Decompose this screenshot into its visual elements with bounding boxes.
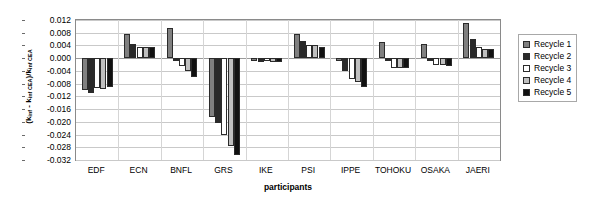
group-separator [288, 20, 289, 160]
y-axis-tick [22, 160, 25, 161]
y-axis-tick-label: -0.020 [27, 118, 71, 126]
legend-item[interactable]: Recycle 2 [523, 50, 571, 62]
bar [149, 47, 155, 58]
gridline [76, 160, 500, 161]
group-separator [458, 20, 459, 160]
y-axis-tick [22, 96, 25, 97]
x-axis-tick-label: IKE [245, 165, 287, 175]
group-separator [373, 20, 374, 160]
legend-item[interactable]: Recycle 3 [523, 62, 571, 74]
y-axis-tick [22, 71, 25, 72]
y-axis-tick [22, 20, 25, 21]
y-axis-tick-label: 0.012 [27, 16, 71, 24]
legend-item[interactable]: Recycle 1 [523, 38, 571, 50]
plot-area [75, 19, 501, 161]
legend-item[interactable]: Recycle 4 [523, 74, 571, 86]
x-axis-tick-label: EDF [75, 165, 117, 175]
bar [167, 28, 173, 58]
plot-inner [76, 20, 500, 160]
y-axis-tick [22, 109, 25, 110]
legend-swatch-icon [523, 77, 530, 84]
y-axis-tick [22, 58, 25, 59]
y-axis-tick-label: 0.008 [27, 29, 71, 37]
y-axis-tick [22, 147, 25, 148]
legend-label: Recycle 3 [534, 63, 571, 73]
group-separator [415, 20, 416, 160]
group-separator [161, 20, 162, 160]
group-separator [246, 20, 247, 160]
bar [488, 49, 494, 59]
bar [319, 47, 325, 58]
y-axis-tick-label: -0.012 [27, 92, 71, 100]
y-axis-tick-label: 0.004 [27, 41, 71, 49]
group-separator [118, 20, 119, 160]
x-axis-tick-label: BNFL [160, 165, 202, 175]
bar [276, 58, 282, 62]
bar [234, 58, 240, 155]
legend-swatch-icon [523, 41, 530, 48]
y-axis-tick [22, 33, 25, 34]
y-axis-tick-label: -0.004 [27, 67, 71, 75]
y-axis-tick [22, 84, 25, 85]
bar [421, 44, 427, 58]
y-axis-tick-label: -0.032 [27, 156, 71, 164]
bar [191, 58, 197, 77]
bar [379, 42, 385, 58]
chart-legend: Recycle 1Recycle 2Recycle 3Recycle 4Recy… [518, 34, 577, 102]
y-axis-tick-label: -0.028 [27, 143, 71, 151]
x-axis-tick-label: TOHOKU [372, 165, 414, 175]
legend-swatch-icon [523, 89, 530, 96]
y-axis-tick-label: -0.008 [27, 80, 71, 88]
x-axis-tick-label: OSAKA [414, 165, 456, 175]
y-axis-tick [22, 135, 25, 136]
x-axis-tick-label: IPPE [329, 165, 371, 175]
legend-label: Recycle 2 [534, 51, 571, 61]
chart-container: (kinf - kinf CEA)/kinf CEA 0.0120.0080.0… [0, 0, 610, 205]
legend-swatch-icon [523, 65, 530, 72]
bar [107, 58, 113, 87]
legend-swatch-icon [523, 53, 530, 60]
legend-label: Recycle 1 [534, 39, 571, 49]
y-axis-tick [22, 45, 25, 46]
y-axis-tick-labels: 0.0120.0080.0040.000-0.004-0.008-0.012-0… [25, 19, 71, 161]
x-axis-title: participants [75, 182, 501, 192]
y-axis-tick-label: 0.000 [27, 54, 71, 62]
bar [403, 58, 409, 68]
x-axis-tick-label: PSI [287, 165, 329, 175]
y-axis-tick-label: -0.024 [27, 131, 71, 139]
group-separator [203, 20, 204, 160]
x-axis-tick-label: GRS [202, 165, 244, 175]
y-axis-tick-label: -0.016 [27, 105, 71, 113]
x-axis-tick-label: JAERI [457, 165, 499, 175]
legend-item[interactable]: Recycle 5 [523, 86, 571, 98]
x-axis-tick-labels: EDFECNBNFLGRSIKEPSIIPPETOHOKUOSAKAJAERI [75, 165, 501, 177]
x-axis-tick-label: ECN [117, 165, 159, 175]
legend-label: Recycle 4 [534, 75, 571, 85]
group-separator [330, 20, 331, 160]
y-axis-tick [22, 122, 25, 123]
bar [446, 58, 452, 66]
bar [361, 58, 367, 87]
legend-label: Recycle 5 [534, 87, 571, 97]
